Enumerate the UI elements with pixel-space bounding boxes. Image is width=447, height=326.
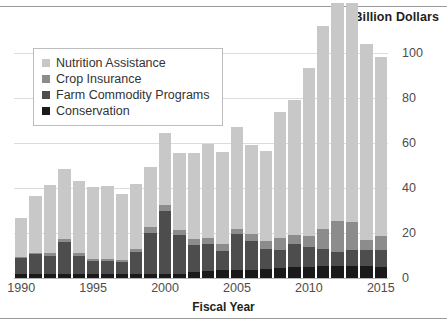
- bar-segment: [101, 259, 113, 261]
- bar-segment: [245, 234, 257, 241]
- bar-segment: [260, 269, 272, 278]
- bar-2011[interactable]: [317, 26, 329, 278]
- bar-segment: [173, 230, 185, 236]
- bar-segment: [202, 244, 214, 271]
- bar-segment: [116, 260, 128, 262]
- bar-segment: [303, 68, 315, 237]
- bar-segment: [15, 258, 27, 274]
- legend-item[interactable]: Farm Commodity Programs: [42, 87, 210, 103]
- bar-segment: [216, 270, 228, 278]
- bar-segment: [58, 242, 70, 273]
- bar-1991[interactable]: [29, 196, 41, 278]
- bar-segment: [202, 144, 214, 237]
- bar-2014[interactable]: [360, 44, 372, 278]
- y-axis-tick-label: 0: [402, 271, 409, 285]
- bar-segment: [360, 266, 372, 278]
- y-axis-tick-label: 20: [402, 226, 416, 240]
- y-axis-tick-label: 80: [402, 91, 416, 105]
- bar-segment: [231, 270, 243, 278]
- bar-segment: [346, 250, 358, 266]
- bar-segment: [303, 247, 315, 267]
- bar-segment: [317, 229, 329, 249]
- bottom-divider-rule: [0, 318, 447, 319]
- bar-segment: [317, 26, 329, 228]
- bar-2013[interactable]: [346, 3, 358, 278]
- bar-2010[interactable]: [303, 68, 315, 278]
- bar-1997[interactable]: [116, 194, 128, 278]
- bar-segment: [375, 57, 387, 237]
- bar-segment: [375, 236, 387, 249]
- bar-1994[interactable]: [73, 181, 85, 278]
- bar-segment: [202, 271, 214, 278]
- bar-segment: [15, 257, 27, 258]
- bar-segment: [130, 184, 142, 249]
- bar-segment: [29, 253, 41, 254]
- bar-segment: [216, 152, 228, 244]
- bar-2006[interactable]: [245, 145, 257, 278]
- bar-segment: [274, 112, 286, 238]
- bar-2015[interactable]: [375, 57, 387, 278]
- legend-item[interactable]: Crop Insurance: [42, 71, 210, 87]
- legend-item[interactable]: Nutrition Assistance: [42, 55, 210, 71]
- bar-segment: [87, 187, 99, 259]
- bar-segment: [44, 256, 56, 274]
- bar-2003[interactable]: [202, 144, 214, 278]
- y-axis-tick-label: 40: [402, 181, 416, 195]
- x-axis-label: Fiscal Year: [0, 300, 447, 314]
- unit-title: Billion Dollars: [353, 10, 439, 24]
- bar-segment: [87, 259, 99, 261]
- bar-segment: [29, 196, 41, 253]
- bar-segment: [144, 227, 156, 233]
- bar-segment: [245, 241, 257, 270]
- axis-baseline: [14, 278, 388, 279]
- legend-item-label: Nutrition Assistance: [56, 56, 166, 70]
- x-axis-tick-label: 2005: [223, 281, 251, 295]
- bar-segment: [231, 229, 243, 235]
- bar-segment: [130, 249, 142, 252]
- bar-1996[interactable]: [101, 186, 113, 278]
- bar-segment: [288, 267, 300, 278]
- bar-2012[interactable]: [331, 3, 343, 278]
- bar-segment: [375, 250, 387, 267]
- bar-segment: [73, 181, 85, 253]
- bar-2001[interactable]: [173, 153, 185, 278]
- bar-segment: [360, 44, 372, 240]
- bar-segment: [231, 234, 243, 270]
- bar-1998[interactable]: [130, 184, 142, 278]
- bar-segment: [288, 100, 300, 235]
- bar-2000[interactable]: [159, 133, 171, 278]
- bar-segment: [216, 244, 228, 251]
- bar-segment: [144, 233, 156, 273]
- legend-swatch-icon: [42, 91, 50, 99]
- bar-segment: [260, 249, 272, 269]
- legend-swatch-icon: [42, 75, 50, 83]
- bar-segment: [288, 244, 300, 266]
- bar-2007[interactable]: [260, 151, 272, 278]
- bar-segment: [274, 250, 286, 268]
- bar-2008[interactable]: [274, 112, 286, 278]
- bar-segment: [159, 133, 171, 205]
- bar-segment: [231, 127, 243, 228]
- legend-item[interactable]: Conservation: [42, 103, 210, 119]
- bar-2004[interactable]: [216, 152, 228, 278]
- bar-segment: [73, 253, 85, 255]
- bar-1992[interactable]: [44, 185, 56, 278]
- bar-segment: [375, 267, 387, 278]
- bar-segment: [331, 3, 343, 221]
- bar-segment: [130, 252, 142, 273]
- bar-1995[interactable]: [87, 187, 99, 278]
- bar-2009[interactable]: [288, 100, 300, 278]
- bar-segment: [288, 235, 300, 244]
- bar-segment: [346, 222, 358, 250]
- bar-segment: [331, 266, 343, 278]
- legend-item-label: Conservation: [56, 104, 130, 118]
- bar-2005[interactable]: [231, 127, 243, 278]
- bar-2002[interactable]: [188, 153, 200, 278]
- bar-1990[interactable]: [15, 218, 27, 278]
- bar-1993[interactable]: [58, 169, 70, 278]
- bar-segment: [58, 169, 70, 239]
- bar-1999[interactable]: [144, 167, 156, 278]
- bar-segment: [44, 253, 56, 255]
- x-axis-tick-label: 2015: [367, 281, 395, 295]
- bar-segment: [346, 266, 358, 278]
